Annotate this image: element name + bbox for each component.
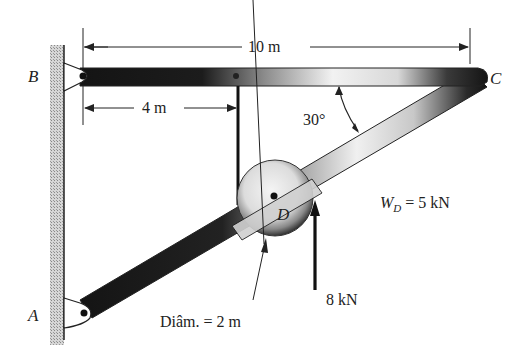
label-angle: 30° bbox=[303, 112, 325, 128]
member-bc bbox=[80, 68, 488, 86]
weight-value: = 5 kN bbox=[405, 194, 450, 211]
label-point-b: B bbox=[28, 68, 38, 85]
label-weight: WD = 5 kN bbox=[380, 195, 450, 214]
weight-symbol: W bbox=[380, 194, 393, 211]
label-point-a: A bbox=[28, 307, 38, 324]
pin-bc bbox=[233, 73, 239, 79]
wall bbox=[50, 45, 64, 345]
pin-d bbox=[271, 193, 278, 200]
label-point-c: C bbox=[490, 70, 501, 87]
label-dim-10m: 10 m bbox=[248, 39, 280, 55]
support-b bbox=[64, 63, 87, 91]
label-diameter: Diâm. = 2 m bbox=[160, 314, 241, 330]
weight-subscript: D bbox=[393, 202, 401, 214]
label-point-d: D bbox=[277, 206, 289, 223]
label-force-8kn: 8 kN bbox=[326, 292, 358, 308]
label-dim-4m: 4 m bbox=[142, 100, 166, 116]
angle-30-arc bbox=[335, 86, 359, 133]
